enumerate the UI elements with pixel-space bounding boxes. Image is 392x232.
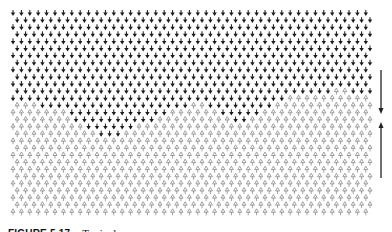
caption-text: Typical	[82, 227, 116, 232]
arrow-down-icon	[379, 70, 384, 114]
figure-caption: FIGURE 5.17Typical	[8, 227, 116, 232]
caption-label: FIGURE 5.17	[8, 228, 70, 232]
arrow-up-icon	[379, 122, 384, 178]
domain-lattice-figure: FIGURE 5.17Typical	[0, 0, 392, 232]
magnetization-arrows	[0, 0, 392, 232]
